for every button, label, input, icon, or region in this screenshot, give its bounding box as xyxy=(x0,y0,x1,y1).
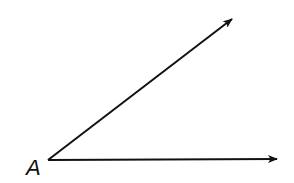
upper-ray xyxy=(48,19,232,160)
horizontal-ray xyxy=(48,159,277,160)
vertex-label-a: A xyxy=(26,157,41,179)
angle-diagram xyxy=(0,0,294,183)
